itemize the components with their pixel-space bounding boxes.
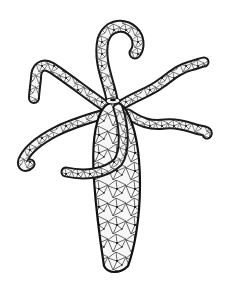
tentacle-left-lower xyxy=(22,114,104,166)
hydra-illustration xyxy=(0,0,228,292)
body-column xyxy=(93,103,140,273)
